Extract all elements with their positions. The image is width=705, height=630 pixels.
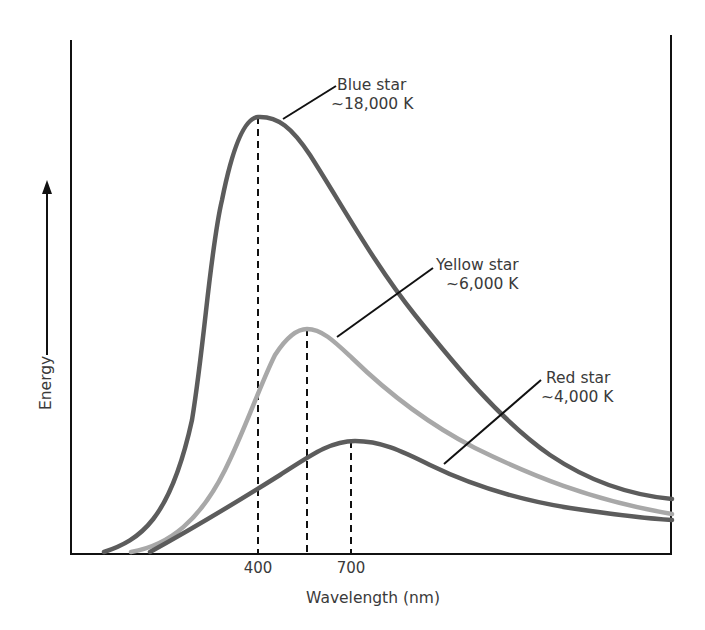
- x-tick-400: 400: [244, 559, 273, 577]
- label-yellow-star-name: Yellow star: [436, 256, 519, 275]
- label-blue-star: Blue star ~18,000 K: [336, 76, 413, 114]
- leader-yellow: [337, 268, 433, 337]
- y-axis-label: Energy: [37, 356, 55, 410]
- x-tick-700: 700: [337, 559, 366, 577]
- label-yellow-star-temp: ~6,000 K: [436, 275, 519, 294]
- leader-blue: [283, 86, 336, 119]
- curve-blue-star: [104, 117, 672, 552]
- label-red-star-temp: ~4,000 K: [541, 388, 613, 407]
- label-yellow-star: Yellow star ~6,000 K: [436, 256, 519, 294]
- x-axis-label: Wavelength (nm): [306, 589, 440, 607]
- energy-arrow-icon: [42, 180, 52, 355]
- label-blue-star-name: Blue star: [336, 76, 413, 95]
- label-blue-star-temp: ~18,000 K: [331, 95, 413, 114]
- label-red-star-name: Red star: [545, 369, 613, 388]
- leader-red: [444, 380, 541, 464]
- label-red-star: Red star ~4,000 K: [545, 369, 613, 407]
